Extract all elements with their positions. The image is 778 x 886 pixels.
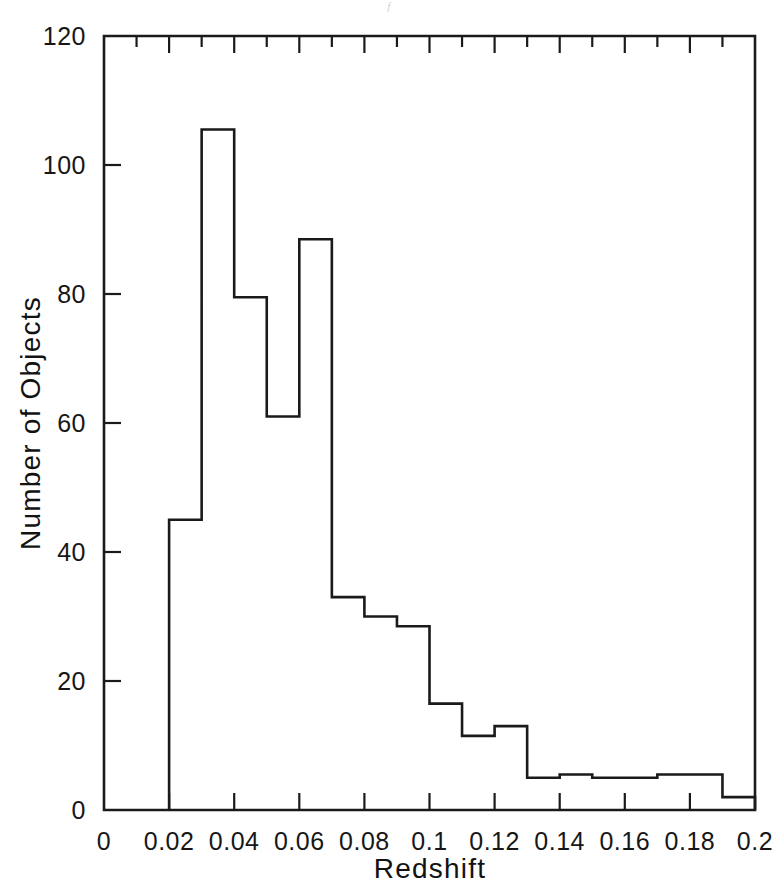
y-tick-label-0: 0 bbox=[72, 796, 86, 824]
y-axis-ticks bbox=[104, 165, 121, 681]
x-tick-label-0.2: 0.2 bbox=[737, 827, 773, 855]
y-tick-label-20: 20 bbox=[57, 667, 86, 695]
y-axis-title: Number of Objects bbox=[15, 296, 46, 550]
figure-container: f 020406080100120 00.020.040.060.080.10.… bbox=[0, 0, 778, 886]
y-tick-label-60: 60 bbox=[57, 409, 86, 437]
x-axis-title: Redshift bbox=[374, 853, 486, 884]
x-tick-label-0.04: 0.04 bbox=[209, 827, 260, 855]
x-tick-label-0.14: 0.14 bbox=[534, 827, 585, 855]
x-tick-label-0.08: 0.08 bbox=[339, 827, 390, 855]
x-tick-label-0.12: 0.12 bbox=[469, 827, 520, 855]
histogram-step-outline bbox=[169, 130, 755, 810]
y-tick-label-100: 100 bbox=[43, 151, 86, 179]
x-axis-ticks bbox=[169, 793, 690, 810]
y-tick-label-80: 80 bbox=[57, 280, 86, 308]
x-tick-label-0.06: 0.06 bbox=[274, 827, 325, 855]
x-tick-label-0.16: 0.16 bbox=[599, 827, 650, 855]
redshift-histogram-chart: 020406080100120 00.020.040.060.080.10.12… bbox=[0, 0, 778, 886]
y-axis-tick-labels: 020406080100120 bbox=[43, 22, 86, 824]
x-axis-top-ticks bbox=[137, 36, 723, 53]
y-tick-label-120: 120 bbox=[43, 22, 86, 50]
x-tick-label-0.18: 0.18 bbox=[665, 827, 716, 855]
x-axis-tick-labels: 00.020.040.060.080.10.120.140.160.180.2 bbox=[97, 827, 773, 855]
x-tick-label-0: 0 bbox=[97, 827, 111, 855]
y-tick-label-40: 40 bbox=[57, 538, 86, 566]
x-tick-label-0.1: 0.1 bbox=[411, 827, 447, 855]
scan-header-fragment: f bbox=[0, 0, 778, 12]
x-tick-label-0.02: 0.02 bbox=[144, 827, 195, 855]
